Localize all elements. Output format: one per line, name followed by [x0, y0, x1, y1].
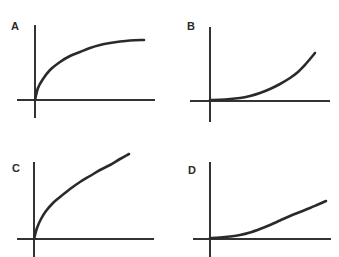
curve-line [35, 40, 144, 100]
panel-b [190, 27, 330, 122]
curve-line [210, 201, 326, 238]
curve-line [34, 154, 129, 239]
curve-line [210, 53, 315, 100]
panel-c [17, 154, 154, 257]
panel-d [193, 162, 331, 257]
panel-a [17, 25, 155, 118]
plots-canvas [0, 0, 339, 257]
curve-shapes-figure: A B C D [0, 0, 339, 257]
